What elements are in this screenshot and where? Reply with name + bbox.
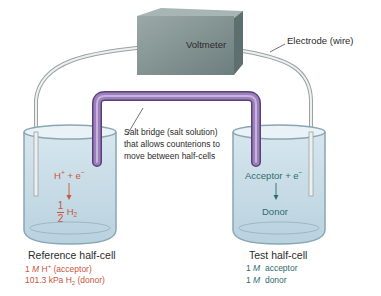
test-cell-donor: 1 M donor (246, 276, 287, 285)
reference-electrode (34, 132, 38, 196)
reference-reaction-product: 1 2 H2 (57, 201, 77, 224)
electrode-label: Electrode (wire) (287, 36, 354, 46)
salt-bridge-label-line3: move between half-cells (124, 152, 215, 161)
test-electrode (309, 132, 313, 196)
reference-reaction-reactants: H+ + e− (54, 170, 85, 181)
salt-bridge-label-line1: Salt bridge (salt solution) (124, 128, 218, 137)
voltmeter-label: Voltmeter (186, 40, 226, 50)
reference-cell-donor: 101.3 kPa H2 (donor) (25, 276, 105, 287)
test-reaction-product: Donor (262, 207, 288, 217)
one-half-fraction: 1 2 (57, 201, 64, 224)
reference-cell-acceptor: 1 M H+ (acceptor) (25, 264, 92, 274)
test-cell-acceptor: 1 M acceptor (246, 264, 298, 273)
test-reaction-reactants: Acceptor + e− (245, 170, 303, 181)
reference-cell-title: Reference half-cell (28, 250, 116, 261)
electrode-pointer (270, 44, 285, 52)
test-cell-title: Test half-cell (249, 250, 307, 261)
salt-bridge-label-line2: that allows counterions to (124, 140, 220, 149)
